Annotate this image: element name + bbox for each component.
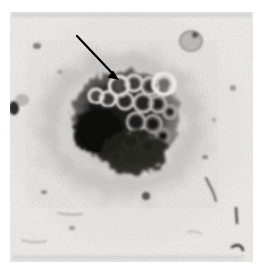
figure-root [0, 0, 262, 273]
cell-colony-micrograph [0, 0, 262, 273]
overlay-grain [10, 12, 253, 262]
